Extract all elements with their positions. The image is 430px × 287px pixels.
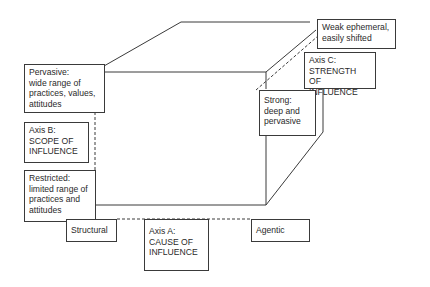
axis-a-title-label: Axis A: CAUSE OF INFLUENCE xyxy=(144,219,209,271)
axis-b-pervasive-label: Pervasive: wide range of practices, valu… xyxy=(24,64,105,113)
cube-top-left-depth-edge xyxy=(104,22,310,66)
axis-b-restricted-label: Restricted: limited range of practices a… xyxy=(24,170,96,222)
axis-c-strong-label: Strong: deep and pervasive xyxy=(259,90,316,136)
axis-a-agentic-label: Agentic xyxy=(251,219,310,242)
axis-a-structural-label: Structural xyxy=(66,219,117,242)
axis-c-weak-label: Weak ephemeral, easily shifted xyxy=(317,19,396,49)
axis-b-title-label: Axis B: SCOPE OF INFLUENCE xyxy=(24,122,89,163)
axis-c-title-label: Axis C: STRENGTH OF INFLUENCE xyxy=(304,52,376,89)
cube-bottom-right-depth-edge xyxy=(266,132,323,205)
